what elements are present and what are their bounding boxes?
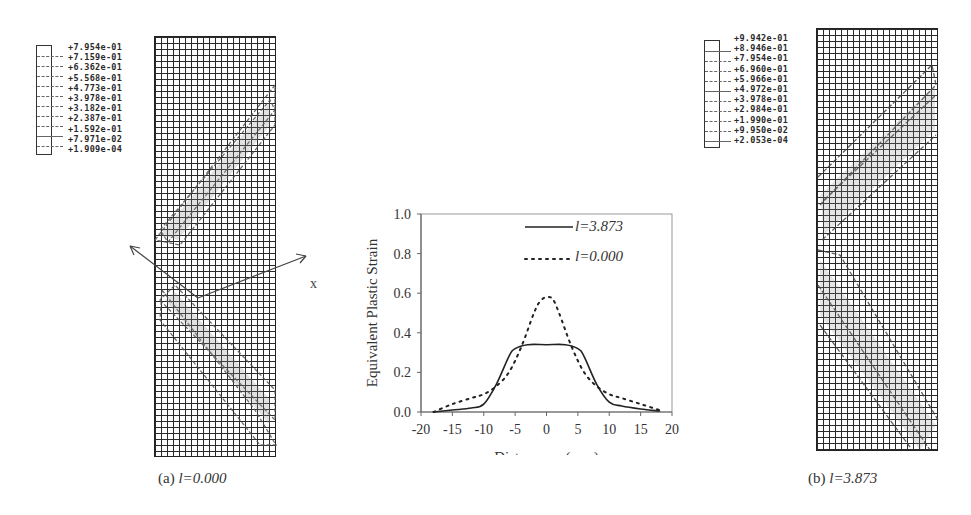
legend-entry: l=3.873 [575,218,623,234]
panel-b-shear-bands [810,25,950,455]
legend-value: +3.182e-01 [68,103,122,113]
y-tick-label: 0.6 [394,286,412,301]
panel-b-legend: +9.942e-01+8.946e-01+7.954e-01+6.960e-01… [704,33,824,151]
legend-value: +2.984e-01 [734,104,788,114]
legend-value: +5.568e-01 [68,73,122,83]
legend-value: +9.942e-01 [734,33,788,43]
x-tick-label: -15 [443,422,462,437]
panel-b-caption: (b) l=3.873 [808,470,877,487]
legend-entry: l=0.000 [575,248,624,264]
y-axis-label: Equivalent Plastic Strain [364,238,380,387]
legend-value: +3.978e-01 [734,94,788,104]
legend-values: +7.954e-01+7.159e-01+6.362e-01+5.568e-01… [68,42,122,154]
legend-value: +7.971e-02 [68,134,122,144]
legend-value: +9.950e-02 [734,125,788,135]
legend-value: +6.362e-01 [68,62,122,72]
y-tick-label: 0.4 [394,326,412,341]
x-tick-label: -20 [412,422,431,437]
x-axis-direction-label: x [310,276,317,291]
y-tick-label: 0.0 [394,405,412,420]
legend-value: +2.387e-01 [68,113,122,123]
x-axis-label: Distance, x (mm) [494,449,599,455]
y-tick-label: 1.0 [394,207,412,222]
panel-b-caption-value: l=3.873 [829,470,877,486]
legend-value: +1.592e-01 [68,124,122,134]
legend-value: +1.909e-04 [68,144,122,154]
series-dotted [434,297,660,412]
y-tick-label: 0.2 [394,365,412,380]
x-tick-label: 15 [634,422,648,437]
x-tick-label: 20 [665,422,679,437]
legend-color-bar [704,40,720,148]
panel-a-caption: (a) l=0.000 [158,470,226,487]
x-tick-label: 0 [543,422,550,437]
legend-value: +4.972e-01 [734,84,788,94]
legend-value: +1.990e-01 [734,115,788,125]
legend-color-bar [36,45,52,155]
legend-value: +6.960e-01 [734,64,788,74]
y-tick-label: 0.8 [394,247,412,262]
x-tick-label: -5 [509,422,521,437]
legend-values: +9.942e-01+8.946e-01+7.954e-01+6.960e-01… [734,33,788,145]
legend-value: +7.954e-01 [68,42,122,52]
legend-value: +8.946e-01 [734,43,788,53]
legend-value: +2.053e-04 [734,135,788,145]
panel-a-caption-value: l=0.000 [178,470,226,486]
plot-frame [421,214,672,412]
legend-value: +4.773e-01 [68,83,122,93]
x-tick-label: 10 [602,422,616,437]
series-solid [434,344,660,412]
legend-value: +5.966e-01 [734,74,788,84]
strain-distribution-chart: 0.00.20.40.60.81.0-20-15-10-505101520Dis… [340,195,690,455]
legend-value: +7.954e-01 [734,53,788,63]
x-tick-label: 5 [574,422,581,437]
x-tick-label: -10 [474,422,493,437]
panel-a-shear-bands: x [120,30,320,470]
legend-value: +7.159e-01 [68,52,122,62]
legend-value: +3.978e-01 [68,93,122,103]
